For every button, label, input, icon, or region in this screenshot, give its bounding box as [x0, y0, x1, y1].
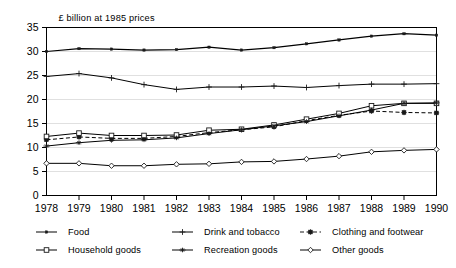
legend-item-label: Clothing and footwear: [332, 227, 423, 237]
data-point-plus-marker: [271, 83, 277, 89]
data-point-plus-marker: [336, 83, 342, 89]
data-point-square-marker: [77, 131, 82, 136]
data-point-square-marker: [109, 133, 114, 138]
data-point-diamond-marker: [239, 159, 244, 164]
series-clothing-and-footwear: [44, 108, 439, 142]
data-point-star-marker: [76, 140, 82, 145]
data-point-diamond-marker: [304, 156, 309, 161]
x-axis-tick-label: 1978: [35, 202, 59, 214]
data-point-diamond-marker: [174, 162, 179, 167]
legend-item-label: Household goods: [68, 245, 141, 255]
series-other-goods: [44, 147, 439, 169]
data-point-dot-marker: [110, 48, 112, 50]
data-point-asterisk-marker: [401, 110, 406, 115]
legend-item-other-goods[interactable]: Other goods: [300, 245, 384, 255]
x-axis-tick-label: 1990: [425, 202, 449, 214]
data-point-diamond-marker: [76, 161, 81, 166]
data-point-dot-marker: [175, 48, 177, 50]
series-household-goods: [44, 101, 439, 139]
data-point-diamond-marker: [141, 163, 146, 168]
legend-sample-dot-marker: [45, 231, 47, 233]
chart-container: 0510152025303519781979198019811982198319…: [0, 0, 456, 268]
x-axis-tick-label: 1981: [132, 202, 156, 214]
series-layer: [43, 33, 439, 169]
legend-item-label: Recreation goods: [204, 245, 278, 255]
data-point-diamond-marker: [206, 161, 211, 166]
y-axis-tick-label: 5: [33, 165, 39, 177]
data-point-diamond-marker: [401, 148, 406, 153]
data-point-plus-marker: [369, 81, 375, 87]
data-point-square-marker: [44, 134, 49, 139]
legend-sample-asterisk-marker: [308, 229, 313, 234]
x-axis-tick-label: 1982: [165, 202, 189, 214]
data-point-diamond-marker: [336, 153, 341, 158]
data-point-plus-marker: [44, 74, 50, 80]
data-point-plus-marker: [206, 84, 212, 90]
data-point-square-marker: [142, 133, 147, 138]
legend-item-label: Drink and tobacco: [204, 227, 280, 237]
data-point-dot-marker: [403, 33, 405, 35]
chart-title: £ billion at 1985 prices: [59, 13, 155, 23]
data-point-plus-marker: [401, 81, 407, 87]
x-axis-tick-label: 1989: [392, 202, 416, 214]
y-axis-tick-label: 25: [27, 69, 39, 81]
data-point-dot-marker: [45, 50, 47, 52]
x-axis-tick-label: 1984: [230, 202, 254, 214]
data-point-square-marker: [369, 103, 374, 108]
legend-item-label: Other goods: [332, 245, 384, 255]
series-food: [45, 33, 437, 53]
x-axis-tick-label: 1985: [262, 202, 286, 214]
y-axis-tick-label: 10: [27, 141, 39, 153]
data-point-diamond-marker: [44, 161, 49, 166]
x-axis-tick-label: 1988: [360, 202, 384, 214]
data-point-dot-marker: [338, 39, 340, 41]
data-point-plus-marker: [141, 82, 147, 88]
data-point-dot-marker: [143, 49, 145, 51]
legend-item-household-goods[interactable]: Household goods: [36, 245, 141, 255]
y-axis-tick-label: 30: [27, 45, 39, 57]
series-line: [47, 103, 437, 146]
data-point-diamond-marker: [271, 159, 276, 164]
data-point-diamond-marker: [369, 149, 374, 154]
y-axis-tick-label: 35: [27, 21, 39, 33]
x-axis-tick-label: 1983: [197, 202, 221, 214]
legend-item-recreation-goods[interactable]: Recreation goods: [172, 245, 278, 255]
data-point-dot-marker: [305, 43, 307, 45]
data-point-plus-marker: [304, 85, 310, 91]
legend-item-drink-and-tobacco[interactable]: Drink and tobacco: [172, 227, 280, 237]
data-point-dot-marker: [370, 35, 372, 37]
legend-sample-square-marker: [44, 248, 49, 253]
y-axis-tick-label: 20: [27, 93, 39, 105]
x-axis-tick-label: 1987: [327, 202, 351, 214]
legend-sample-diamond-marker: [308, 247, 313, 252]
legend-item-label: Food: [68, 227, 89, 237]
x-axis: 1978197919801981198219831984198519861987…: [35, 196, 449, 214]
data-point-asterisk-marker: [434, 110, 439, 115]
legend-sample-star-marker: [179, 248, 185, 253]
series-markers: [44, 71, 440, 93]
data-point-plus-marker: [239, 84, 245, 90]
series-recreation-goods: [43, 101, 439, 149]
y-axis-tick-label: 15: [27, 117, 39, 129]
legend-item-clothing-and-footwear[interactable]: Clothing and footwear: [300, 227, 423, 237]
series-markers: [44, 101, 439, 139]
line-chart: 0510152025303519781979198019811982198319…: [0, 0, 456, 268]
y-axis: 05101520253035: [27, 21, 47, 201]
legend-item-food[interactable]: Food: [36, 227, 89, 237]
data-point-plus-marker: [434, 81, 440, 87]
data-point-dot-marker: [240, 49, 242, 51]
data-point-plus-marker: [174, 87, 180, 93]
chart-legend: FoodDrink and tobaccoClothing and footwe…: [36, 227, 423, 255]
legend-sample-plus-marker: [180, 229, 186, 235]
y-axis-tick-label: 0: [33, 189, 39, 201]
x-axis-tick-label: 1986: [295, 202, 319, 214]
series-markers: [44, 108, 439, 142]
x-axis-tick-label: 1980: [100, 202, 124, 214]
series-drink-and-tobacco: [44, 71, 440, 93]
data-point-dot-marker: [78, 47, 80, 49]
x-axis-tick-label: 1979: [67, 202, 91, 214]
data-point-diamond-marker: [109, 163, 114, 168]
data-point-dot-marker: [435, 34, 437, 36]
data-point-dot-marker: [208, 46, 210, 48]
data-point-dot-marker: [273, 46, 275, 48]
